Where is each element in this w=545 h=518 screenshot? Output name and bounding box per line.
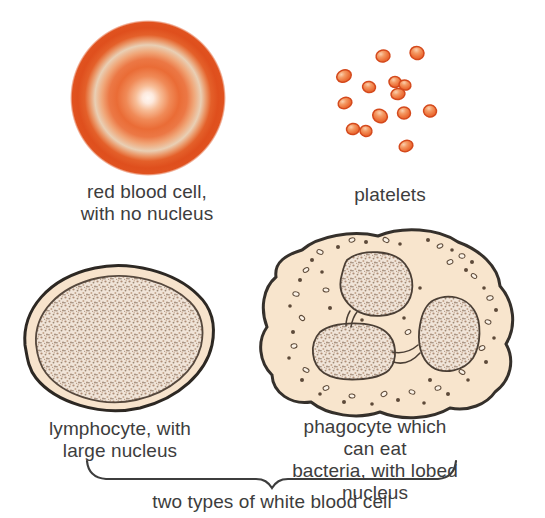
blood-cells-diagram: red blood cell, with no nucleus platelet… (0, 0, 545, 518)
white-blood-cell-caption: two types of white blood cell (152, 491, 391, 513)
lymphocyte-label: lymphocyte, with large nucleus (49, 418, 191, 462)
lymphocyte-illustration (25, 266, 214, 411)
red-blood-cell-label: red blood cell, with no nucleus (81, 181, 213, 225)
red-blood-cell-illustration (70, 20, 226, 176)
phagocyte-illustration (261, 230, 513, 418)
platelets-label: platelets (354, 184, 426, 206)
platelets-illustration (335, 44, 438, 153)
